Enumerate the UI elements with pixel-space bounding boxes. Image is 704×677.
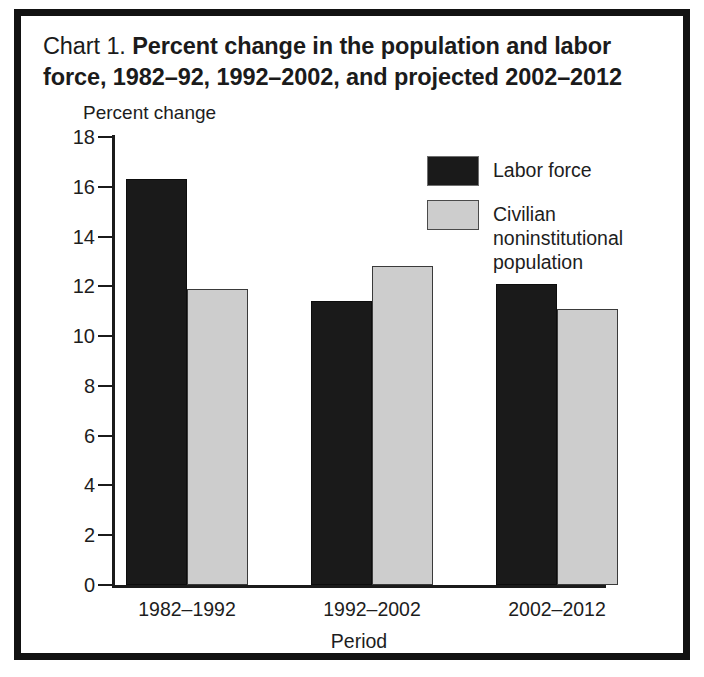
y-axis-tick <box>98 236 113 238</box>
y-axis-tick <box>98 584 113 586</box>
y-axis-title: Percent change <box>83 102 216 124</box>
y-axis-line <box>112 135 115 587</box>
y-axis-tick <box>98 534 113 536</box>
bar-population <box>187 289 248 585</box>
legend-swatch-labor-force <box>427 156 479 186</box>
chart-legend: Labor forceCivilian noninstitutional pop… <box>427 156 677 288</box>
y-axis-tick-label: 10 <box>53 325 95 348</box>
legend-swatch-population <box>427 200 479 230</box>
bar-labor-force <box>496 284 557 585</box>
y-axis-tick-label: 16 <box>53 175 95 198</box>
x-axis-tick-label: 1992–2002 <box>323 598 421 621</box>
y-axis-tick <box>98 484 113 486</box>
bar-population <box>372 266 433 585</box>
x-axis-tick-label: 1982–1992 <box>138 598 236 621</box>
y-axis-tick <box>98 136 113 138</box>
y-axis-tick-label: 4 <box>53 474 95 497</box>
plot-area: Percent change 024681012141618 1982–1992… <box>21 16 683 653</box>
y-axis-tick-label: 2 <box>53 524 95 547</box>
x-axis-line <box>112 585 606 588</box>
bar-labor-force <box>311 301 372 585</box>
y-axis-tick <box>98 435 113 437</box>
x-axis-tick-label: 2002–2012 <box>508 598 606 621</box>
y-axis-tick-label: 14 <box>53 225 95 248</box>
y-axis-tick-label: 12 <box>53 275 95 298</box>
legend-item: Labor force <box>427 156 677 186</box>
bar-population <box>557 309 618 585</box>
y-axis-tick-label: 8 <box>53 374 95 397</box>
y-axis-tick <box>98 335 113 337</box>
legend-label: Labor force <box>493 158 592 182</box>
chart-canvas: Chart 1. Percent change in the populatio… <box>21 16 683 653</box>
y-axis-tick-label: 0 <box>53 574 95 597</box>
legend-label: Civilian noninstitutional population <box>493 202 677 274</box>
chart-figure: Chart 1. Percent change in the populatio… <box>14 9 690 660</box>
y-axis-tick-label: 18 <box>53 126 95 149</box>
y-axis-tick <box>98 186 113 188</box>
y-axis-tick <box>98 285 113 287</box>
x-axis-title: Period <box>331 630 387 653</box>
y-axis-tick-label: 6 <box>53 424 95 447</box>
legend-item: Civilian noninstitutional population <box>427 200 677 274</box>
bar-labor-force <box>126 179 187 585</box>
y-axis-tick <box>98 385 113 387</box>
